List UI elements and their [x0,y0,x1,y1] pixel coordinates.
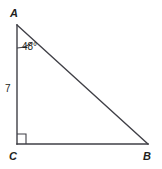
side-length-label-ac: 7 [5,84,11,94]
right-angle-marker-c [17,134,26,144]
vertex-label-c: C [9,151,17,162]
triangle-figure: A B C 48° 7 [0,0,162,169]
angle-measure-label-a: 48° [22,42,37,52]
vertex-label-a: A [10,8,18,19]
vertex-label-b: B [143,151,151,162]
triangle-drawing [0,0,162,169]
